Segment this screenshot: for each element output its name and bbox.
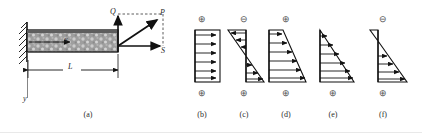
sign-top-d: ⊕ [279, 14, 293, 24]
stress-diagram-e [312, 28, 362, 84]
sign-bottom-c: ⊕ [237, 88, 251, 98]
sign-bottom-e: ⊕ [326, 88, 340, 98]
sign-bottom-f: ⊕ [376, 88, 390, 98]
figure-root: x y L Q S P (a) ⊕ ⊕ (b) ⊖ [0, 0, 422, 135]
force-label-p: P [160, 8, 165, 17]
panel-label-c: (c) [234, 110, 254, 119]
force-label-s: S [161, 46, 165, 55]
stress-diagram-d [262, 28, 314, 84]
panel-label-a: (a) [78, 110, 98, 119]
sign-bottom-b: ⊕ [195, 88, 209, 98]
sign-top-b: ⊕ [195, 14, 209, 24]
length-label: L [68, 62, 72, 71]
panel-label-e: (e) [323, 110, 343, 119]
sign-top-c: ⊖ [237, 14, 251, 24]
bottom-divider [0, 132, 422, 133]
panel-label-d: (d) [276, 110, 296, 119]
axis-x-label: x [64, 35, 68, 44]
axis-y-label: y [23, 94, 27, 103]
stress-diagram-b [185, 28, 229, 84]
beam-body [27, 30, 118, 52]
fixed-support [19, 22, 27, 64]
cantilever-beam-diagram [0, 2, 200, 114]
sign-top-f: ⊖ [376, 14, 390, 24]
sign-bottom-d: ⊕ [279, 88, 293, 98]
panel-label-f: (f) [373, 110, 393, 119]
dimension-line-L [28, 54, 118, 78]
panel-label-b: (b) [192, 110, 212, 119]
force-arrow-p [118, 20, 157, 46]
force-label-q: Q [110, 7, 116, 16]
stress-diagram-f [366, 28, 416, 84]
